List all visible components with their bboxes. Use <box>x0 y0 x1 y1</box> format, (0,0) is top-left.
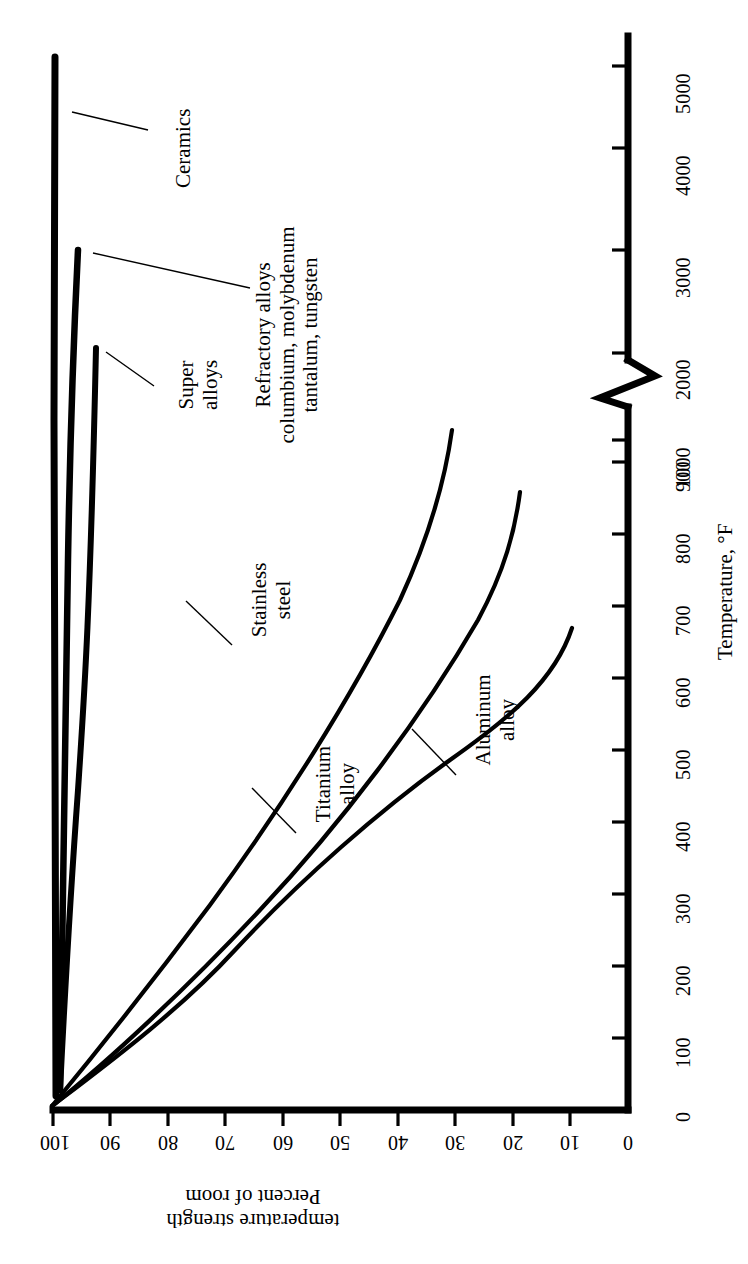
ytick-label-70: 70 <box>211 1132 239 1154</box>
annotation-super-line1: Super <box>175 330 199 440</box>
leader-refractory <box>93 253 250 288</box>
ytick-label-80: 80 <box>154 1132 182 1154</box>
ytick-label-60: 60 <box>269 1132 297 1154</box>
xtick-label-3000: 3000 <box>672 257 694 298</box>
xtick-label-700: 700 <box>672 605 694 636</box>
leader-ceramics <box>72 112 148 130</box>
xtick-label-2000: 2000 <box>672 359 694 400</box>
xtick-label-5000: 5000 <box>672 73 694 114</box>
annotation-titanium-line2: alloy <box>336 720 360 848</box>
x-axis-title: Temperature, °F <box>714 524 738 660</box>
annotation-refractory-alloys: Refractory alloys columbium, molybdenum … <box>252 220 323 450</box>
y-axis-title: temperature strength Percent of room <box>118 1185 388 1232</box>
annotation-refractory-line2: columbium, molybdenum <box>276 220 300 450</box>
axis-break-zigzag <box>600 360 655 407</box>
curve-ceramics <box>54 57 56 1096</box>
annotation-ceramics: Ceramics <box>172 109 196 188</box>
xtick-label-400: 400 <box>672 821 694 852</box>
y-axis-title-line1: Percent of room <box>118 1185 388 1209</box>
xtick-label-800: 800 <box>672 533 694 564</box>
chart-figure: 0 100 200 300 400 500 600 700 800 900 10… <box>0 0 748 1264</box>
annotation-aluminum-line2: alloy <box>496 650 520 790</box>
annotation-super-alloys: Super alloys <box>175 330 222 440</box>
ytick-label-90: 90 <box>96 1132 124 1154</box>
leader-aluminum <box>412 729 456 775</box>
xtick-label-300: 300 <box>672 893 694 924</box>
ytick-label-40: 40 <box>384 1132 412 1154</box>
y-axis-title-line2: temperature strength <box>118 1209 388 1233</box>
annotation-aluminum-line1: Aluminum <box>472 650 496 790</box>
xtick-label-100: 100 <box>672 1037 694 1068</box>
curve-stainless-steel <box>52 430 452 1106</box>
annotation-stainless-line2: steel <box>272 540 296 660</box>
annotation-aluminum-alloy: Aluminum alloy <box>472 650 519 790</box>
leader-titanium <box>252 788 296 833</box>
leader-stainless <box>186 601 232 645</box>
xtick-label-200: 200 <box>672 965 694 996</box>
ytick-label-10: 10 <box>556 1132 584 1154</box>
annotation-super-line2: alloys <box>199 330 223 440</box>
annotation-titanium-alloy: Titanium alloy <box>312 720 359 848</box>
annotation-refractory-line1: Refractory alloys <box>252 220 276 450</box>
ytick-label-100: 100 <box>39 1132 71 1154</box>
xtick-label-0: 0 <box>672 1112 694 1122</box>
annotation-stainless-steel: Stainless steel <box>248 540 295 660</box>
annotation-refractory-line3: tantalum, tungsten <box>299 220 323 450</box>
xtick-label-600: 600 <box>672 677 694 708</box>
xtick-label-4000: 4000 <box>672 155 694 196</box>
annotation-stainless-line1: Stainless <box>248 540 272 660</box>
leader-super-alloys <box>106 352 154 386</box>
xtick-label-500: 500 <box>672 749 694 780</box>
ytick-label-30: 30 <box>441 1132 469 1154</box>
ytick-label-20: 20 <box>499 1132 527 1154</box>
annotation-titanium-line1: Titanium <box>312 720 336 848</box>
xtick-label-1000: 1000 <box>672 447 694 488</box>
ytick-label-50: 50 <box>326 1132 354 1154</box>
ytick-label-0: 0 <box>616 1132 640 1154</box>
chart-plot-area <box>0 0 748 1264</box>
